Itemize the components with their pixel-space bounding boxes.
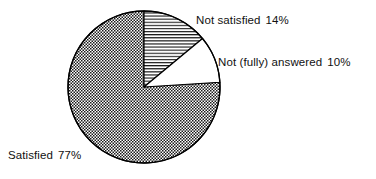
pie-label-satisfied-text: Satisfied <box>8 149 53 161</box>
pie-label-not-satisfied-percent: 14% <box>266 14 289 26</box>
pie-label-not-satisfied: Not satisfied14% <box>196 14 289 27</box>
pie-label-not-answered-text: Not (fully) answered <box>218 56 322 68</box>
pie-label-satisfied: Satisfied77% <box>8 149 81 162</box>
pie-label-not-satisfied-text: Not satisfied <box>196 14 261 26</box>
pie-label-not-answered-percent: 10% <box>327 56 350 68</box>
pie-chart-figure: Not satisfied14% Not (fully) answered10%… <box>0 0 376 179</box>
pie-label-satisfied-percent: 77% <box>58 149 81 161</box>
pie-label-not-answered: Not (fully) answered10% <box>218 56 351 69</box>
